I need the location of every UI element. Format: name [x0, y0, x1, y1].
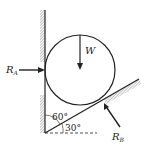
reaction-a-arrow — [19, 67, 45, 73]
weight-label: W — [85, 45, 96, 56]
incline-hatching — [104, 79, 141, 104]
angle-label-30: 30° — [65, 123, 81, 133]
reaction-b-label: RB — [111, 131, 125, 143]
angle-label-60: 60° — [52, 112, 68, 122]
statics-diagram: W RA RB 60° 30° — [0, 0, 149, 148]
reaction-b-arrow — [104, 103, 120, 127]
weight-arrow — [77, 35, 83, 70]
angle-arc-30 — [62, 124, 63, 133]
inclined-plane — [45, 79, 139, 133]
reaction-a-label: RA — [5, 64, 19, 76]
